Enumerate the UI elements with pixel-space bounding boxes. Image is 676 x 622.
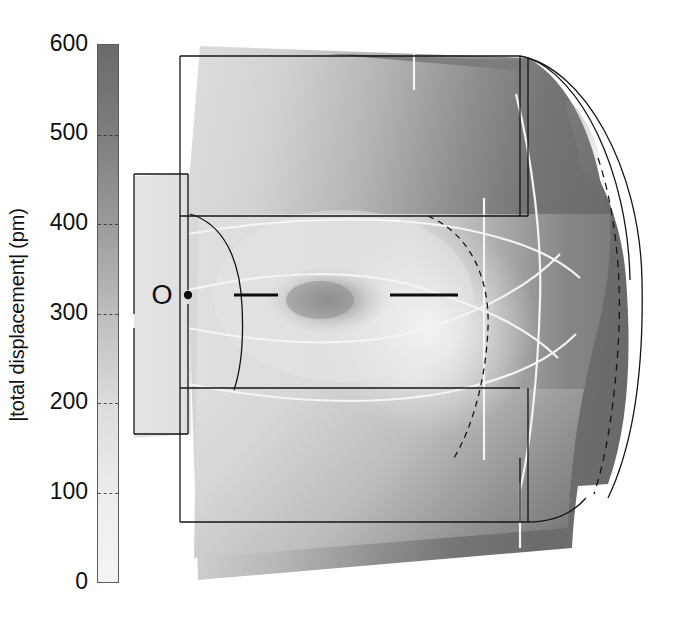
colorbar-tick-label: 100 bbox=[50, 480, 88, 503]
colorbar-tick bbox=[98, 493, 118, 494]
colorbar-tick-label: 400 bbox=[50, 211, 88, 234]
colorbar-tick bbox=[98, 314, 118, 315]
origin-label: O bbox=[151, 280, 172, 310]
colorbar-tick bbox=[98, 403, 118, 404]
colorbar-tick-label: 500 bbox=[50, 121, 88, 144]
plot-svg: O bbox=[128, 28, 676, 603]
origin-dot bbox=[184, 291, 192, 299]
displacement-field-plot: O bbox=[128, 28, 676, 603]
colorbar-tick bbox=[98, 224, 118, 225]
figure-root: |total displacement| (pm) 600 500 400 30… bbox=[0, 0, 676, 622]
colorbar bbox=[97, 44, 119, 583]
colorbar-tick-label: 0 bbox=[75, 570, 88, 593]
colorbar-tick-label: 200 bbox=[50, 390, 88, 413]
colorbar-tick-label: 300 bbox=[50, 301, 88, 324]
colorbar-tick bbox=[98, 135, 118, 136]
colorbar-tick-label: 600 bbox=[50, 32, 88, 55]
colorbar-tick-labels: 600 500 400 300 200 100 0 bbox=[0, 0, 88, 622]
dark-lobe-core bbox=[286, 281, 354, 319]
